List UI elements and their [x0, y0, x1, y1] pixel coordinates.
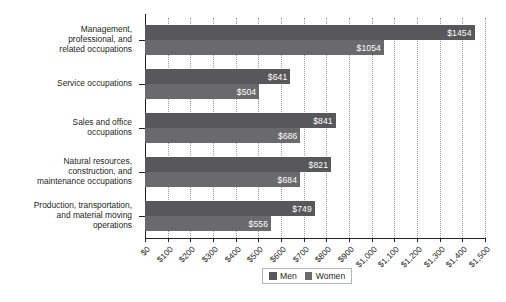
x-axis-tickmark — [236, 238, 237, 242]
x-axis-tickmark — [190, 238, 191, 242]
bar-value-label: $1054 — [357, 43, 381, 53]
y-axis-category-labels: Management,professional, andrelated occu… — [0, 18, 140, 238]
bar-value-label: $504 — [237, 87, 256, 97]
x-axis-tickmark — [213, 238, 214, 242]
x-axis-tickmark — [462, 238, 463, 242]
x-axis-line — [145, 238, 486, 239]
bar-men-4: $749 — [145, 201, 315, 216]
plot-area: $1454$1054$641$504$841$686$821$684$749$5… — [145, 18, 485, 238]
bar-value-label: $1454 — [447, 28, 471, 38]
y-axis-tick — [139, 40, 145, 41]
category-label-3: Natural resources,construction, andmaint… — [0, 157, 140, 186]
bar-value-label: $641 — [268, 72, 287, 82]
y-axis-tick — [139, 128, 145, 129]
category-label-2: Sales and officeoccupations — [0, 118, 140, 137]
bar-men-2: $841 — [145, 113, 336, 128]
bar-men-3: $821 — [145, 157, 331, 172]
bar-value-label: $556 — [249, 219, 268, 229]
bar-women-4: $556 — [145, 216, 271, 231]
x-axis-tickmark — [485, 238, 486, 242]
x-axis-tickmark — [417, 238, 418, 242]
chart-legend[interactable]: MenWomen — [262, 268, 352, 284]
category-label-text: Production, transportation,and material … — [34, 201, 140, 230]
category-label-0: Management,professional, andrelated occu… — [0, 25, 140, 54]
category-label-1: Service occupations — [0, 79, 140, 89]
bar-women-2: $686 — [145, 128, 300, 143]
y-axis-tick — [139, 84, 145, 85]
legend-label: Women — [316, 271, 345, 281]
legend-swatch-icon — [305, 272, 313, 280]
gridline — [462, 18, 463, 238]
legend-item-men[interactable]: Men — [269, 271, 297, 281]
bar-value-label: $841 — [313, 116, 332, 126]
gridline — [440, 18, 441, 238]
bar-value-label: $686 — [278, 131, 297, 141]
legend-item-women[interactable]: Women — [305, 271, 345, 281]
legend-label: Men — [280, 271, 297, 281]
category-label-text: Service occupations — [57, 79, 140, 89]
category-label-text: Natural resources,construction, andmaint… — [37, 157, 140, 186]
bar-women-3: $684 — [145, 172, 300, 187]
x-axis-tickmark — [349, 238, 350, 242]
bar-women-0: $1054 — [145, 40, 384, 55]
x-axis-tickmark — [394, 238, 395, 242]
x-axis-tickmark — [440, 238, 441, 242]
x-axis-tickmark — [281, 238, 282, 242]
x-axis-tickmark — [168, 238, 169, 242]
x-axis-tickmark — [326, 238, 327, 242]
bar-value-label: $821 — [309, 160, 328, 170]
category-label-4: Production, transportation,and material … — [0, 201, 140, 230]
bar-men-1: $641 — [145, 69, 290, 84]
y-axis-tick — [139, 216, 145, 217]
gridline — [394, 18, 395, 238]
gridline — [485, 18, 486, 238]
x-axis-tickmark — [372, 238, 373, 242]
bar-value-label: $684 — [278, 175, 297, 185]
bar-women-1: $504 — [145, 84, 259, 99]
category-label-text: Sales and officeoccupations — [73, 118, 140, 137]
bar-value-label: $749 — [292, 204, 311, 214]
gridline — [417, 18, 418, 238]
legend-swatch-icon — [269, 272, 277, 280]
bar-men-0: $1454 — [145, 25, 475, 40]
y-axis-tick — [139, 172, 145, 173]
bar-chart: Management,professional, andrelated occu… — [0, 0, 506, 302]
x-axis-tickmark — [145, 238, 146, 242]
x-axis-tickmark — [258, 238, 259, 242]
x-axis-tickmark — [304, 238, 305, 242]
category-label-text: Management,professional, andrelated occu… — [59, 25, 140, 54]
